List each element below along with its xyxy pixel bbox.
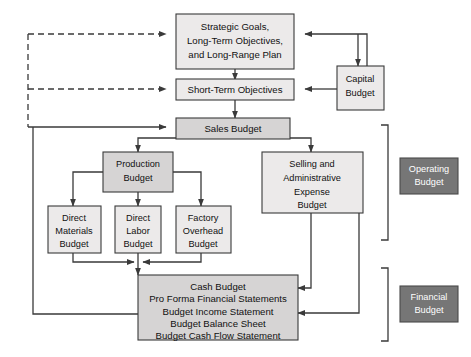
financial-budget-label-box (400, 286, 458, 322)
factory-overhead-to-junction (143, 253, 201, 262)
short-term-objectives-label: Short-Term Objectives (188, 84, 283, 95)
selling-admin-line-1: Selling and (289, 159, 334, 169)
selling-admin-to-cash-budget (298, 213, 311, 288)
cash-budget-line-3: Budget Income Statement (163, 306, 274, 317)
production-to-factory-overhead (173, 172, 201, 206)
strategic-goals-line-2: Long-Term Objectives, (187, 35, 283, 46)
direct-materials-line-3: Budget (59, 239, 89, 249)
selling-admin-line-4: Budget (297, 200, 327, 210)
financial-budget-line-2: Budget (414, 305, 444, 315)
factory-overhead-line-1: Factory (188, 213, 219, 223)
selling-admin-line-2: Administrative (283, 173, 341, 183)
node-cash-budget: Cash Budget Pro Forma Financial Statemen… (138, 275, 298, 341)
node-capital-budget: Capital Budget (337, 66, 384, 110)
selling-admin-outer-to-cash-budget (298, 213, 359, 313)
financial-budget-bracket (381, 268, 388, 341)
production-budget-line-1: Production (116, 159, 160, 169)
sales-to-production (138, 138, 190, 152)
operating-budget-line-1: Operating (409, 164, 449, 174)
factory-overhead-line-2: Overhead (183, 226, 223, 236)
node-short-term-objectives: Short-Term Objectives (176, 79, 294, 100)
capital-budget-line-2: Budget (345, 88, 375, 98)
cash-budget-line-5: Budget Cash Flow Statement (156, 330, 281, 341)
budget-flowchart-diagram: Strategic Goals, Long-Term Objectives, a… (0, 0, 471, 357)
operating-budget-line-2: Budget (414, 177, 444, 187)
node-production-budget: Production Budget (103, 152, 173, 192)
cash-budget-line-1: Cash Budget (190, 281, 246, 292)
flowchart-canvas: Strategic Goals, Long-Term Objectives, a… (0, 0, 471, 357)
factory-overhead-line-3: Budget (188, 239, 218, 249)
production-to-direct-materials (73, 172, 103, 206)
strategic-goals-line-1: Strategic Goals, (201, 21, 269, 32)
selling-admin-line-3: Expense (294, 187, 330, 197)
sales-budget-label: Sales Budget (204, 123, 261, 134)
node-direct-materials-budget: Direct Materials Budget (48, 206, 101, 253)
financial-budget-line-1: Financial (411, 292, 448, 302)
direct-materials-to-junction (73, 253, 134, 262)
node-direct-labor-budget: Direct Labor Budget (115, 206, 161, 253)
operating-budget-bracket (381, 125, 388, 240)
direct-labor-line-1: Direct (126, 213, 150, 223)
operating-budget-label-box (400, 158, 458, 194)
sales-to-selling-admin (281, 138, 311, 152)
production-budget-line-2: Budget (123, 173, 153, 183)
direct-materials-line-1: Direct (62, 213, 86, 223)
label-financial-budget: Financial Budget (400, 286, 458, 322)
capital-budget-line-1: Capital (346, 74, 375, 84)
node-selling-admin-budget: Selling and Administrative Expense Budge… (262, 152, 363, 213)
production-budget-box (103, 152, 173, 192)
strategic-goals-line-3: and Long-Range Plan (188, 49, 281, 60)
cash-budget-line-4: Budget Balance Sheet (170, 318, 266, 329)
label-operating-budget: Operating Budget (400, 158, 458, 194)
direct-materials-line-2: Materials (55, 226, 93, 236)
node-strategic-goals: Strategic Goals, Long-Term Objectives, a… (176, 14, 294, 69)
node-factory-overhead-budget: Factory Overhead Budget (176, 206, 231, 253)
cash-budget-line-2: Pro Forma Financial Statements (149, 293, 287, 304)
node-sales-budget: Sales Budget (176, 118, 290, 139)
direct-labor-line-2: Labor (126, 226, 150, 236)
direct-labor-line-3: Budget (123, 239, 153, 249)
